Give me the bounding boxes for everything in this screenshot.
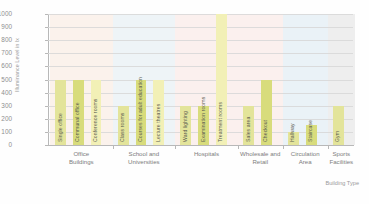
y-tick-label: 300 — [0, 103, 12, 109]
gridline — [48, 40, 353, 41]
x-axis-title: Building Type — [326, 180, 359, 186]
bar-checkout[interactable] — [261, 80, 272, 146]
x-category-label-line1: Office — [50, 150, 113, 158]
x-category-label: CirculationArea — [283, 150, 328, 166]
illuminance-bar-chart: Illuminance Level in lx 1000900800700600… — [0, 0, 369, 204]
x-category-label-line1: Circulation — [283, 150, 328, 158]
bar-ward-lighting[interactable] — [180, 106, 191, 145]
x-category-label-line2: Buildings — [50, 158, 113, 166]
x-category-label-line1: Hospitals — [175, 150, 238, 158]
y-tick-label: 100 — [0, 129, 12, 135]
bar-sales-area[interactable] — [243, 106, 254, 145]
y-tick-label: 200 — [0, 116, 12, 122]
bar-hallway[interactable] — [288, 132, 299, 145]
x-category-label: School andUniversities — [113, 150, 176, 166]
x-category-label-line1: School and — [113, 150, 176, 158]
x-category-label: Hospitals — [175, 150, 238, 158]
x-category-label-line2: Universities — [113, 158, 176, 166]
x-category-label: OfficeBuildings — [50, 150, 113, 166]
y-tick-label: 400 — [0, 90, 12, 96]
x-tick-mark — [175, 146, 176, 149]
plot-area: Single officeCommunal officeConference r… — [48, 14, 353, 145]
gridline — [48, 66, 353, 67]
x-tick-mark — [328, 146, 329, 149]
x-tick-mark — [238, 146, 239, 149]
bar-treatment-rooms[interactable] — [216, 14, 227, 145]
y-tick-label: 700 — [0, 50, 12, 56]
x-category-label-line2: Area — [283, 158, 328, 166]
y-tick-label: 0 — [0, 142, 12, 148]
y-tick-label: 1000 — [0, 11, 12, 17]
bar-examination-rooms[interactable] — [198, 106, 209, 145]
gridline — [48, 27, 353, 28]
x-category-label-line2: Retail — [238, 158, 283, 166]
y-tick-label: 800 — [0, 37, 12, 43]
x-category-label-line1: Sports — [328, 150, 355, 158]
gridline — [48, 14, 353, 15]
y-tick-label: 900 — [0, 24, 12, 30]
bar-class-rooms[interactable] — [118, 106, 129, 145]
bar-conference-rooms[interactable] — [91, 80, 102, 146]
y-tick-label: 600 — [0, 63, 12, 69]
y-tick-label: 500 — [0, 77, 12, 83]
x-category-label: SportsFacilities — [328, 150, 355, 166]
x-category-label-line2: Facilities — [328, 158, 355, 166]
x-category-label-line1: Wholesale and — [238, 150, 283, 158]
x-category-label: Wholesale andRetail — [238, 150, 283, 166]
bar-lecture-theatres[interactable] — [153, 80, 164, 146]
x-tick-mark — [113, 146, 114, 149]
bar-gym[interactable] — [333, 106, 344, 145]
x-tick-mark — [283, 146, 284, 149]
gridline — [48, 53, 353, 54]
bar-courses-for-adult-education[interactable] — [136, 80, 147, 146]
bar-staircase[interactable] — [306, 125, 317, 145]
x-axis-line — [48, 145, 354, 146]
bar-communal-office[interactable] — [73, 80, 84, 146]
bar-single-office[interactable] — [55, 80, 66, 146]
